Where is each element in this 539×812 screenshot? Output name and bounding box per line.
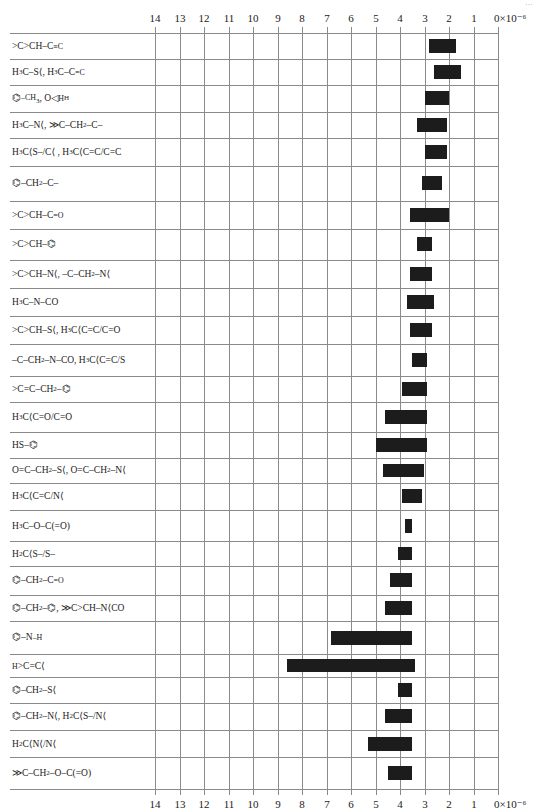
- gridline-vertical: [278, 27, 279, 796]
- range-bar: [390, 573, 412, 587]
- range-bar: [402, 489, 422, 503]
- axis-tick-label: 12: [199, 798, 210, 810]
- gridline-vertical: [351, 27, 352, 796]
- row-label: >C=C–CH2–⌬: [12, 377, 71, 403]
- range-bar: [417, 237, 432, 251]
- gridline-vertical: [302, 27, 303, 796]
- row-label: ⌬–CH2–C–: [12, 167, 58, 201]
- axis-tick-label: 5: [373, 798, 379, 810]
- axis-tick-label: 7: [324, 798, 330, 810]
- axis-tick-label: 6: [348, 798, 354, 810]
- range-bar: [405, 519, 412, 533]
- range-bar: [422, 176, 442, 190]
- axis-tick-label: 9: [275, 12, 281, 24]
- range-bar: [429, 39, 456, 53]
- range-bar: [398, 547, 413, 561]
- gridline-vertical: [229, 27, 230, 796]
- range-bar: [410, 208, 449, 222]
- gridline-vertical: [474, 27, 475, 796]
- row-label: >C>CH–C=O: [12, 202, 64, 229]
- axis-tick-label: 5: [373, 12, 379, 24]
- range-bar: [410, 323, 432, 337]
- row-label: ⌬–N–H: [12, 622, 42, 655]
- axis-tick-label: 13: [175, 12, 186, 24]
- axis-tick-label: 4: [397, 12, 403, 24]
- chemical-shift-range-chart: ··· 14131211109876543210×10⁻⁶ 1413121110…: [0, 0, 539, 812]
- range-bar: [376, 438, 427, 452]
- range-bar: [407, 295, 434, 309]
- row-label: H3C–N⟨, ≫C–CH2–C–: [12, 113, 102, 139]
- axis-tick-label: 11: [224, 12, 235, 24]
- range-bar: [385, 601, 412, 615]
- axis-tick-label: 14: [150, 798, 161, 810]
- gridline-vertical: [498, 27, 499, 796]
- row-label: H2C⟨N⟨/N⟨: [12, 731, 56, 757]
- gridline-vertical: [376, 27, 377, 796]
- range-bar: [398, 683, 413, 697]
- axis-tick-label: 14: [150, 12, 161, 24]
- axis-tick-label: 1: [471, 12, 477, 24]
- axis-tick-label: 10: [248, 798, 259, 810]
- axis-tick-label: 7: [324, 12, 330, 24]
- row-label: H2C⟨S–/S–: [12, 542, 55, 566]
- row-label: >C>CH–S⟨, H3C⟨C=C/C=O: [12, 317, 120, 344]
- row-label: –C–CH2–N–CO, H3C⟨C=C/S: [12, 345, 125, 376]
- row-label: O=C–CH2–S⟨, O=C–CH2–N⟨: [12, 459, 126, 482]
- row-label: ⌬–CH2–N⟨, H2C⟨S–/N⟨: [12, 704, 106, 730]
- axis-tick-label: 2: [446, 12, 452, 24]
- gridline-vertical: [180, 27, 181, 796]
- range-bar: [425, 145, 447, 159]
- axis-tick-label: 10: [248, 12, 259, 24]
- gridline-vertical: [253, 27, 254, 796]
- row-label: HS–⌬: [12, 433, 38, 458]
- range-bar: [385, 410, 427, 424]
- row-label: H3C⟨S–/C⟨ , H3C⟨C=C/C=C: [12, 139, 121, 165]
- row-label: >C>CH–N⟨, –C–CH2–N⟨: [12, 261, 110, 288]
- range-bar: [388, 766, 413, 780]
- range-bar: [402, 382, 427, 396]
- axis-tick-label: 11: [224, 798, 235, 810]
- gridline-vertical: [327, 27, 328, 796]
- gridline-vertical: [155, 27, 156, 796]
- range-bar: [368, 737, 412, 751]
- axis-tick-label: 13: [175, 798, 186, 810]
- axis-tick-label: 0×10⁻⁶: [494, 12, 526, 25]
- gridline-vertical: [449, 27, 450, 796]
- range-bar: [410, 267, 432, 281]
- axis-tick-label: 4: [397, 798, 403, 810]
- row-label: H3C–S⟨, H3C–C=C: [12, 60, 85, 85]
- axis-tick-label: 3: [422, 798, 428, 810]
- range-bar: [331, 631, 412, 645]
- corner-mark: ···: [525, 0, 533, 9]
- axis-tick-label: 6: [348, 12, 354, 24]
- axis-tick-label: 8: [299, 12, 305, 24]
- range-bar: [412, 353, 427, 367]
- row-label: H>C=C⟨: [12, 655, 45, 677]
- range-bar: [425, 91, 450, 105]
- row-label: ⌬–CH2–C=O: [12, 567, 64, 595]
- range-bar: [417, 118, 446, 132]
- gridline-vertical: [204, 27, 205, 796]
- row-label: ≫C–CH2–O–C(=O): [12, 758, 91, 789]
- axis-tick-label: 3: [422, 12, 428, 24]
- axis-tick-label: 0×10⁻⁶: [494, 798, 526, 811]
- range-bar: [383, 464, 425, 477]
- axis-tick-label: 8: [299, 798, 305, 810]
- row-label: H3C–N–CO: [12, 289, 58, 316]
- axis-tick-label: 2: [446, 798, 452, 810]
- range-bar: [434, 65, 461, 79]
- row-label: >C>CH–⌬: [12, 230, 56, 260]
- row-label: ⌬–CH2–⌬, ≫C>CH–N⟨CO: [12, 596, 124, 621]
- row-label: >C>CH–C≡C: [12, 34, 63, 59]
- range-bar: [385, 709, 412, 723]
- row-label: H3C–O–C(=O): [12, 511, 70, 541]
- axis-tick-label: 1: [471, 798, 477, 810]
- row-label: H3C⟨C=O/C=O: [12, 403, 72, 432]
- axis-tick-label: 12: [199, 12, 210, 24]
- row-label: H3C⟨C=C/N⟨: [12, 484, 64, 510]
- row-label: ⌬–CH3, O◁HH: [12, 86, 69, 112]
- axis-tick-label: 9: [275, 798, 281, 810]
- range-bar: [287, 659, 414, 672]
- row-label: ⌬–CH2–S⟨: [12, 678, 56, 702]
